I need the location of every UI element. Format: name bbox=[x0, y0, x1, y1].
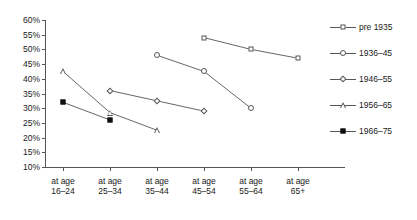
legend-symbol bbox=[330, 124, 356, 138]
open-diamond-icon bbox=[339, 75, 346, 82]
legend-symbol bbox=[330, 72, 356, 86]
legend-label: 1946–55 bbox=[356, 75, 392, 84]
legend-label: 1936–45 bbox=[356, 49, 392, 58]
legend-item[interactable]: 1966–75 bbox=[330, 118, 416, 144]
x-tick-label: at age65+ bbox=[286, 176, 310, 196]
x-tick-label-line: at age bbox=[286, 176, 310, 186]
x-tick-label: at age25–34 bbox=[98, 176, 122, 196]
open-triangle-icon bbox=[340, 102, 346, 108]
legend-marker bbox=[340, 50, 346, 56]
filled-square-icon bbox=[341, 129, 346, 134]
x-tick-label-line: 25–34 bbox=[98, 186, 122, 196]
x-tick-label-line: at age bbox=[239, 176, 263, 186]
legend-marker bbox=[341, 129, 346, 134]
legend-symbol bbox=[330, 98, 356, 112]
x-tick-label-line: 35–44 bbox=[145, 186, 169, 196]
legend-item[interactable]: pre 1935 bbox=[330, 14, 416, 40]
x-tick-label-line: 65+ bbox=[286, 186, 310, 196]
x-tick-label-line: at age bbox=[98, 176, 122, 186]
legend-item[interactable]: 1936–45 bbox=[330, 40, 416, 66]
line-chart: 60%55%50%45%40%35%30%25%20%15%10% at age… bbox=[0, 0, 417, 220]
x-tick-label-line: 55–64 bbox=[239, 186, 263, 196]
x-tick-label: at age35–44 bbox=[145, 176, 169, 196]
x-tick-label: at age45–54 bbox=[192, 176, 216, 196]
legend-label: 1966–75 bbox=[356, 127, 392, 136]
legend: pre 19351936–451946–551956–651966–75 bbox=[330, 14, 416, 144]
legend-label: 1956–65 bbox=[356, 101, 392, 110]
open-circle-icon bbox=[340, 50, 346, 56]
x-tick-label-line: at age bbox=[51, 176, 75, 186]
x-tick-label-line: at age bbox=[145, 176, 169, 186]
legend-item[interactable]: 1946–55 bbox=[330, 66, 416, 92]
legend-marker bbox=[341, 25, 346, 30]
legend-symbol bbox=[330, 20, 356, 34]
legend-symbol bbox=[330, 46, 356, 60]
x-tick-label-line: 45–54 bbox=[192, 186, 216, 196]
x-tick-label-line: 16–24 bbox=[51, 186, 75, 196]
legend-marker bbox=[340, 102, 346, 108]
x-tick-label: at age55–64 bbox=[239, 176, 263, 196]
x-tick-label: at age16–24 bbox=[51, 176, 75, 196]
legend-item[interactable]: 1956–65 bbox=[330, 92, 416, 118]
open-square-icon bbox=[341, 25, 346, 30]
x-tick-label-line: at age bbox=[192, 176, 216, 186]
legend-marker bbox=[341, 77, 346, 82]
legend-label: pre 1935 bbox=[356, 23, 393, 32]
